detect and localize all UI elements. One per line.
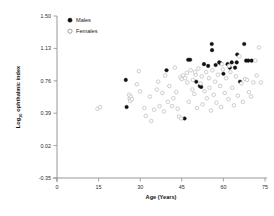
data-point (200, 75, 204, 79)
data-point (179, 117, 183, 121)
data-point (174, 90, 178, 94)
data-point (163, 74, 167, 78)
data-point (162, 110, 166, 114)
data-point (218, 84, 222, 88)
data-point (253, 59, 257, 63)
x-tick-label: 75 (262, 184, 268, 190)
data-point (148, 95, 152, 99)
data-point (166, 100, 170, 104)
data-point (191, 88, 195, 92)
data-point (199, 85, 203, 89)
y-axis-title-text: Log10 ophthalmic index (15, 65, 23, 128)
data-point (208, 86, 212, 90)
data-point (213, 80, 217, 84)
data-point (207, 76, 211, 80)
data-point (234, 75, 238, 79)
legend-marker-females (68, 29, 72, 33)
data-point (204, 70, 208, 74)
y-tick-label: 0.39 (41, 110, 52, 116)
data-point (158, 104, 162, 108)
data-point (247, 90, 251, 94)
data-point (193, 70, 197, 74)
data-point (125, 105, 129, 109)
data-point (214, 63, 218, 67)
data-point (245, 78, 249, 82)
data-point (222, 72, 226, 76)
data-point (152, 108, 156, 112)
data-point (249, 95, 253, 99)
y-tick-label: 0.02 (41, 143, 52, 149)
data-point (235, 61, 239, 65)
data-point (219, 105, 223, 109)
data-point (209, 109, 213, 113)
data-point (197, 67, 201, 71)
data-point (205, 97, 209, 101)
data-point (227, 97, 231, 101)
data-point (211, 68, 215, 72)
y-tick-label: 1.13 (41, 45, 52, 51)
data-point (247, 59, 251, 63)
data-point (155, 88, 159, 92)
data-point (230, 61, 234, 65)
x-axis-title: Age (Years) (146, 194, 177, 200)
y-tick-label: 1.50 (41, 13, 52, 19)
data-point (192, 92, 196, 96)
data-point (195, 106, 199, 110)
data-point (233, 66, 237, 70)
x-tick-label: 30 (137, 184, 143, 190)
data-point (232, 104, 236, 108)
data-point (189, 68, 193, 72)
data-point (124, 78, 128, 82)
y-tick-label: 0.76 (41, 78, 52, 84)
data-point (236, 94, 240, 98)
data-point (143, 106, 147, 110)
data-point (255, 74, 259, 78)
data-point (173, 66, 177, 70)
data-point (172, 97, 176, 101)
data-point (238, 54, 242, 58)
data-point (130, 97, 134, 101)
data-point (259, 81, 263, 85)
data-point (240, 82, 244, 86)
data-point (199, 82, 203, 86)
legend-label-males: Males (76, 17, 91, 23)
data-point (223, 91, 227, 95)
data-point (212, 93, 216, 97)
data-point (220, 62, 224, 66)
x-tick-label: 45 (179, 184, 185, 190)
data-point (230, 86, 234, 90)
data-point (227, 64, 231, 68)
data-point (257, 46, 261, 50)
data-point (188, 58, 192, 62)
data-point (187, 100, 191, 104)
data-point (252, 81, 256, 85)
data-point (168, 84, 172, 88)
data-point (149, 119, 153, 123)
data-point (185, 71, 189, 75)
data-point (165, 68, 169, 72)
data-point (206, 64, 210, 68)
data-point (183, 76, 187, 80)
series-females (96, 46, 263, 123)
y-axis-title: Log10 ophthalmic index (15, 65, 23, 128)
data-point (201, 103, 205, 107)
data-point (138, 90, 142, 94)
data-point (156, 80, 160, 84)
scatter-plot-figure: 1.501.130.760.390.02-0.3501530456075Age … (0, 0, 274, 216)
data-point (203, 90, 207, 94)
data-point (242, 42, 246, 46)
data-point (216, 73, 220, 77)
x-tick-label: 15 (96, 184, 102, 190)
data-point (98, 105, 102, 109)
data-point (161, 91, 165, 95)
data-point (210, 48, 214, 52)
data-point (135, 83, 139, 87)
data-point (137, 69, 141, 73)
chart-canvas: 1.501.130.760.390.02-0.3501530456075Age … (0, 0, 274, 216)
x-tick-label: 0 (56, 184, 59, 190)
data-point (186, 81, 190, 85)
data-point (170, 104, 174, 108)
y-tick-label: -0.35 (39, 175, 51, 181)
data-point (176, 107, 180, 111)
x-tick-label: 60 (220, 184, 226, 190)
